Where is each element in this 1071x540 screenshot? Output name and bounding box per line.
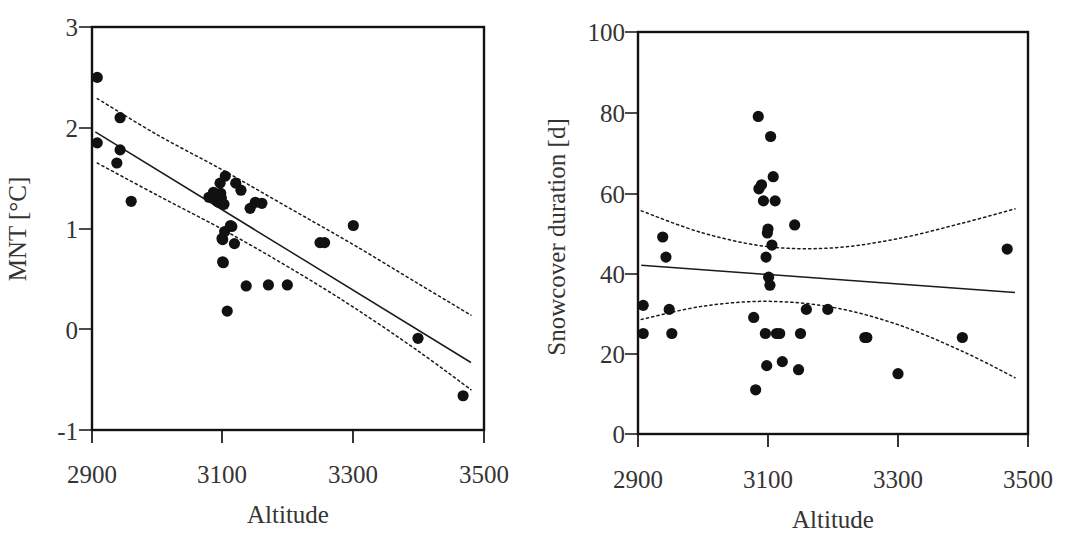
- data-point: [777, 356, 788, 367]
- y-tick-label: 1: [66, 216, 79, 243]
- y-tick-label: 0: [66, 317, 79, 344]
- chart-panel-snowcover: 100 80 60 40 20 0 2900 3100 3300 3500 Al…: [535, 0, 1071, 540]
- x-tick-label: 3500: [1003, 466, 1053, 493]
- mnt-scatter-svg: 3 2 1 0 -1 2900 3100 3300 3500 Altitude …: [0, 0, 536, 540]
- figure-container: 3 2 1 0 -1 2900 3100 3300 3500 Altitude …: [0, 0, 1071, 540]
- data-point: [235, 185, 246, 196]
- snow-ticklabels-x: 2900 3100 3300 3500: [613, 466, 1053, 493]
- data-point: [218, 257, 229, 268]
- data-point: [114, 144, 125, 155]
- data-point: [765, 131, 776, 142]
- y-tick-label: 0: [613, 421, 626, 448]
- data-point: [1002, 243, 1013, 254]
- data-point: [412, 333, 423, 344]
- snow-ticklabels-y: 100 80 60 40 20 0: [588, 19, 626, 448]
- y-tick-label: 20: [600, 341, 625, 368]
- data-point: [457, 390, 468, 401]
- data-point: [319, 237, 330, 248]
- data-point: [793, 364, 804, 375]
- data-point: [92, 137, 103, 148]
- data-point: [218, 199, 229, 210]
- x-tick-label: 3300: [873, 466, 923, 493]
- y-tick-label: 40: [600, 261, 625, 288]
- data-point: [114, 112, 125, 123]
- data-point: [789, 219, 800, 230]
- confidence-bands: [641, 209, 1015, 378]
- y-axis-title: MNT [°C]: [4, 177, 31, 282]
- data-point: [822, 304, 833, 315]
- y-tick-label: 80: [600, 100, 625, 127]
- data-point: [263, 279, 274, 290]
- data-point: [282, 279, 293, 290]
- x-tick-label: 3100: [743, 466, 793, 493]
- confidence-bands: [97, 99, 471, 390]
- plot-frame: [638, 32, 1028, 434]
- data-point: [760, 328, 771, 339]
- data-point: [753, 111, 764, 122]
- data-point: [748, 312, 759, 323]
- data-point: [768, 171, 779, 182]
- y-tick-label: -1: [57, 418, 78, 445]
- x-tick-label: 3300: [328, 461, 378, 488]
- data-points: [638, 111, 1013, 396]
- data-point: [126, 196, 137, 207]
- data-point: [861, 332, 872, 343]
- y-tick-label: 100: [588, 19, 626, 46]
- y-tick-label: 2: [66, 115, 79, 142]
- data-point: [761, 360, 772, 371]
- data-point: [764, 280, 775, 291]
- mnt-ticklabels-y: 3 2 1 0 -1: [57, 14, 78, 445]
- y-tick-label: 60: [600, 181, 625, 208]
- data-point: [222, 306, 233, 317]
- axis-ticks: [79, 27, 484, 443]
- x-tick-label: 2900: [613, 466, 663, 493]
- data-point: [638, 300, 649, 311]
- data-point: [957, 332, 968, 343]
- x-tick-label: 2900: [67, 461, 117, 488]
- data-point: [215, 188, 226, 199]
- y-axis-title: Snowcover duration [d]: [543, 118, 570, 355]
- data-point: [229, 238, 240, 249]
- data-point: [660, 252, 671, 263]
- data-point: [111, 157, 122, 168]
- x-axis-title: Altitude: [247, 501, 329, 528]
- confidence-band-lower-confidence: [97, 163, 471, 390]
- snowcover-scatter-svg: 100 80 60 40 20 0 2900 3100 3300 3500 Al…: [535, 0, 1071, 540]
- data-point: [892, 368, 903, 379]
- data-point: [758, 195, 769, 206]
- x-tick-label: 3500: [459, 461, 509, 488]
- x-axis-title: Altitude: [792, 506, 874, 533]
- data-point: [666, 328, 677, 339]
- regression-line: [95, 132, 471, 363]
- chart-panel-mnt: 3 2 1 0 -1 2900 3100 3300 3500 Altitude …: [0, 0, 536, 540]
- data-points: [92, 72, 469, 402]
- x-tick-label: 3100: [197, 461, 247, 488]
- data-point: [256, 198, 267, 209]
- data-point: [241, 280, 252, 291]
- data-point: [756, 179, 767, 190]
- regression-line: [641, 265, 1015, 292]
- regression-fit-line: [95, 132, 471, 363]
- data-point: [801, 304, 812, 315]
- axis-ticks: [625, 32, 1028, 447]
- snow-plot-area: [625, 32, 1028, 447]
- data-point: [657, 231, 668, 242]
- data-point: [766, 239, 777, 250]
- data-point: [770, 195, 781, 206]
- data-point: [774, 328, 785, 339]
- data-point: [348, 220, 359, 231]
- data-point: [638, 328, 649, 339]
- y-tick-label: 3: [66, 14, 79, 41]
- data-point: [795, 328, 806, 339]
- data-point: [762, 223, 773, 234]
- data-point: [664, 304, 675, 315]
- plot-frame: [92, 27, 484, 430]
- regression-fit-line: [641, 265, 1015, 292]
- data-point: [760, 252, 771, 263]
- mnt-plot-area: [79, 27, 484, 443]
- data-point: [226, 221, 237, 232]
- data-point: [750, 384, 761, 395]
- confidence-band-upper-confidence: [641, 209, 1015, 249]
- mnt-ticklabels-x: 2900 3100 3300 3500: [67, 461, 509, 488]
- data-point: [92, 72, 103, 83]
